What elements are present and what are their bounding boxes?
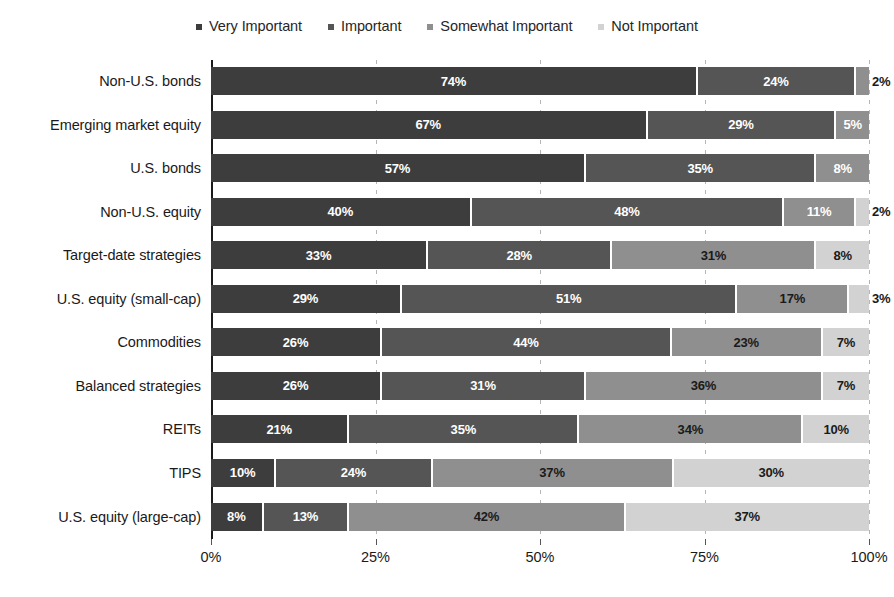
category-label-2: U.S. bonds (0, 154, 201, 182)
bar-segment-r10-s1[interactable]: 13% (264, 503, 350, 531)
bar-value-label: 74% (441, 75, 466, 88)
bar-segment-r10-s2[interactable]: 42% (349, 503, 625, 531)
bar-segment-r2-s2[interactable]: 8% (816, 154, 869, 182)
x-tick-label-0: 0% (201, 549, 222, 565)
legend-item-label: Important (341, 18, 401, 34)
bar-segment-r2-s1[interactable]: 35% (586, 154, 816, 182)
bar-segment-r6-s2[interactable]: 23% (672, 328, 823, 356)
legend-item-label: Very Important (209, 18, 302, 34)
bar-value-label: 34% (678, 423, 703, 436)
legend-item-3[interactable]: Not Important (598, 18, 698, 34)
bar-segment-r10-s0[interactable]: 8% (211, 503, 264, 531)
bar-value-label: 3% (872, 292, 890, 305)
bar-segment-r5-s2[interactable]: 17% (737, 285, 849, 313)
bar-value-label: 26% (283, 336, 308, 349)
bar-value-label: 40% (328, 205, 353, 218)
bar-value-label: 10% (823, 423, 848, 436)
bar-value-label: 13% (293, 510, 318, 523)
legend-item-2[interactable]: Somewhat Important (427, 18, 572, 34)
bar-segment-r4-s0[interactable]: 33% (211, 241, 428, 269)
bar-segment-r10-s3[interactable]: 37% (626, 503, 869, 531)
bar-segment-r1-s1[interactable]: 29% (648, 111, 837, 139)
bar-segment-r3-s1[interactable]: 48% (472, 198, 785, 226)
bar-segment-r7-s1[interactable]: 31% (382, 372, 586, 400)
bar-segment-r6-s3[interactable]: 7% (823, 328, 869, 356)
bar-segment-r9-s0[interactable]: 10% (211, 459, 276, 487)
bar-segment-r3-s0[interactable]: 40% (211, 198, 472, 226)
bar-value-label: 67% (416, 118, 441, 131)
x-tick-mark-100 (869, 539, 870, 545)
bar-value-label: 51% (556, 292, 581, 305)
legend-item-0[interactable]: Very Important (196, 18, 302, 34)
bar-value-label: 8% (833, 249, 851, 262)
bar-segment-r4-s3[interactable]: 8% (816, 241, 869, 269)
legend-item-label: Somewhat Important (440, 18, 572, 34)
plot-area: 74%24%2%67%29%5%57%35%8%40%48%11%2%33%28… (211, 60, 869, 539)
bar-series-container: 74%24%2%67%29%5%57%35%8%40%48%11%2%33%28… (211, 60, 869, 539)
legend-item-1[interactable]: Important (328, 18, 401, 34)
category-label-9: TIPS (0, 459, 201, 487)
bar-value-label: 8% (227, 510, 245, 523)
bar-value-label: 28% (507, 249, 532, 262)
bar-value-label: 2% (872, 75, 890, 88)
bar-value-label: 35% (451, 423, 476, 436)
bar-value-label: 31% (470, 379, 495, 392)
x-tick-label-75: 75% (690, 549, 719, 565)
bar-segment-r7-s0[interactable]: 26% (211, 372, 382, 400)
bar-segment-r0-s1[interactable]: 24% (698, 67, 856, 95)
bar-value-label: 36% (691, 379, 716, 392)
bar-segment-r9-s3[interactable]: 30% (674, 459, 869, 487)
bar-value-label: 35% (687, 162, 712, 175)
bar-value-label: 57% (385, 162, 410, 175)
bar-segment-r1-s2[interactable]: 5% (836, 111, 869, 139)
category-label-3: Non-U.S. equity (0, 198, 201, 226)
category-label-7: Balanced strategies (0, 372, 201, 400)
bar-segment-r5-s1[interactable]: 51% (402, 285, 738, 313)
bar-segment-r4-s2[interactable]: 31% (612, 241, 816, 269)
bar-row-9: 10%24%37%30% (211, 459, 869, 487)
bar-row-4: 33%28%31%8% (211, 241, 869, 269)
category-label-8: REITs (0, 415, 201, 443)
bar-segment-r9-s1[interactable]: 24% (276, 459, 432, 487)
bar-segment-r3-s3[interactable]: 2% (856, 198, 869, 226)
bar-value-label: 31% (701, 249, 726, 262)
bar-value-label: 24% (763, 75, 788, 88)
bar-segment-r1-s0[interactable]: 67% (211, 111, 648, 139)
bar-segment-r2-s0[interactable]: 57% (211, 154, 586, 182)
bar-value-label: 37% (735, 510, 760, 523)
bar-value-label: 33% (306, 249, 331, 262)
bar-value-label: 48% (614, 205, 639, 218)
bar-row-7: 26%31%36%7% (211, 372, 869, 400)
bar-segment-r6-s0[interactable]: 26% (211, 328, 382, 356)
legend-swatch-icon (196, 24, 202, 30)
bar-value-label: 8% (833, 162, 851, 175)
bar-value-label: 5% (844, 118, 862, 131)
bar-segment-r5-s0[interactable]: 29% (211, 285, 402, 313)
bar-value-label: 17% (780, 292, 805, 305)
bar-segment-r0-s0[interactable]: 74% (211, 67, 698, 95)
chart-legend: Very ImportantImportantSomewhat Importan… (0, 18, 894, 34)
bar-row-2: 57%35%8% (211, 154, 869, 182)
bar-segment-r8-s2[interactable]: 34% (579, 415, 803, 443)
bar-value-label: 11% (807, 205, 832, 218)
bar-segment-r0-s2[interactable]: 2% (856, 67, 869, 95)
bar-value-label: 29% (293, 292, 318, 305)
bar-segment-r7-s2[interactable]: 36% (586, 372, 823, 400)
bar-value-label: 44% (513, 336, 538, 349)
bar-segment-r3-s2[interactable]: 11% (784, 198, 856, 226)
x-tick-mark-75 (705, 539, 706, 545)
bar-segment-r4-s1[interactable]: 28% (428, 241, 612, 269)
bar-segment-r8-s1[interactable]: 35% (349, 415, 579, 443)
bar-segment-r8-s0[interactable]: 21% (211, 415, 349, 443)
bar-segment-r7-s3[interactable]: 7% (823, 372, 869, 400)
legend-swatch-icon (598, 24, 604, 30)
bar-value-label: 42% (474, 510, 499, 523)
bar-segment-r8-s3[interactable]: 10% (803, 415, 869, 443)
category-label-10: U.S. equity (large-cap) (0, 503, 201, 531)
bar-value-label: 30% (759, 466, 784, 479)
x-tick-label-50: 50% (525, 549, 554, 565)
bar-segment-r5-s3[interactable]: 3% (849, 285, 869, 313)
bar-segment-r6-s1[interactable]: 44% (382, 328, 672, 356)
category-label-0: Non-U.S. bonds (0, 67, 201, 95)
bar-segment-r9-s2[interactable]: 37% (433, 459, 674, 487)
